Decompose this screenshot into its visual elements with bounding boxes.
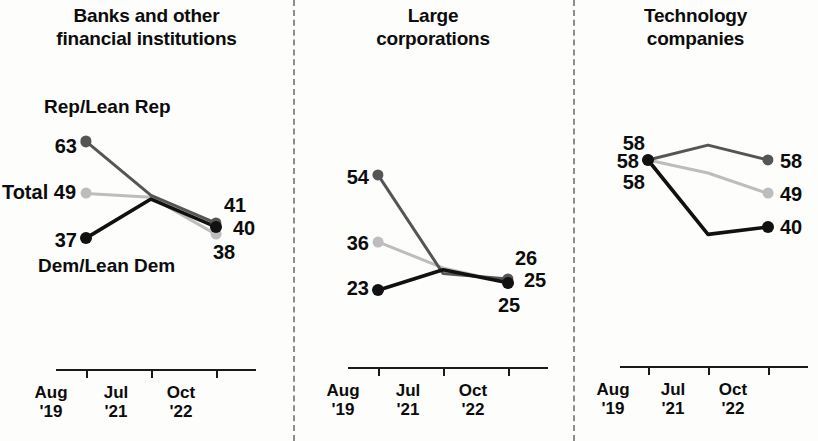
x-axis-tick-label: Oct '22 [146,383,216,421]
data-point [81,188,92,199]
x-axis-tick [648,366,650,375]
value-label-total-aug19-corps: 36 [347,232,369,255]
series-label-dem: Dem/Lean Dem [38,255,175,277]
value-label-rep-oct22-tech: 58 [780,150,802,173]
x-axis-tick [768,366,770,375]
value-label-rep-aug19-banks: 63 [55,135,77,158]
data-point [80,232,92,244]
x-axis-tick-label: Aug '19 [16,383,86,421]
panel-title-banks: Banks and other financial institutions [0,4,293,50]
data-point [373,236,384,247]
data-point [372,284,384,296]
panel-large-corporations: Large corporations [293,0,573,441]
x-axis-tick [86,369,88,378]
x-axis-tick [378,367,380,376]
x-axis-tick-label: Jul '21 [81,383,151,421]
value-label-dem-aug19-tech: 58 [623,171,645,194]
value-label-dem-aug19-banks: 37 [55,229,77,252]
data-point [762,221,774,233]
value-label-dem-oct22-banks: 40 [233,217,255,240]
x-axis-tick-label: Aug '19 [308,381,378,419]
value-label-dem-aug19-corps: 23 [347,277,369,300]
data-point [763,188,774,199]
x-axis-tick [216,369,218,378]
value-label-rep-oct22-corps: 26 [515,247,537,270]
panel-divider-1 [293,0,295,441]
value-label-dem-oct22-tech: 40 [780,216,802,239]
data-point [210,221,222,233]
value-label-total-aug19-banks: Total 49 [2,181,76,204]
panel-divider-2 [573,0,575,441]
x-axis-tick-label: Oct '22 [698,380,768,418]
value-label-rep-aug19-corps: 54 [347,166,369,189]
x-axis-tick [151,369,153,378]
value-label-total-oct22-banks: 38 [213,241,235,264]
x-axis-tick [508,367,510,376]
panel-title-large-corporations: Large corporations [293,4,573,50]
value-label-total-aug19-tech: 58 [617,150,639,173]
x-axis-tick-label: Oct '22 [438,381,508,419]
x-axis-tick [443,367,445,376]
x-axis-tick-label: Jul '21 [373,381,443,419]
value-label-rep-oct22-banks: 41 [224,194,246,217]
value-label-total-oct22-corps: 25 [498,294,520,317]
multi-panel-line-chart: Banks and other financial institutions L… [0,0,818,441]
series-label-rep: Rep/Lean Rep [44,96,171,118]
panel-title-technology-companies: Technology companies [573,4,818,50]
x-axis-tick [708,366,710,375]
value-label-total-oct22-tech: 49 [780,183,802,206]
data-point [642,154,654,166]
value-label-dem-oct22-corps: 25 [524,269,546,292]
data-point [502,277,514,289]
